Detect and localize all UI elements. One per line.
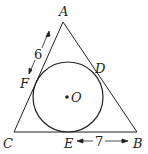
measure-af-label: 6: [34, 47, 42, 62]
triangle-abc: [14, 22, 137, 132]
tangent-label-e: E: [63, 136, 74, 151]
tangent-label-d: D: [94, 61, 106, 76]
vertex-label-c: C: [3, 136, 13, 151]
tangent-label-f: F: [19, 76, 30, 91]
measure-eb-label: 7: [95, 134, 103, 149]
center-point-o: [65, 95, 69, 99]
incircle-diagram: 6 7 A B C D E F O: [0, 0, 148, 154]
center-label-o: O: [71, 90, 82, 105]
vertex-label-b: B: [132, 136, 143, 151]
vertex-label-a: A: [58, 4, 68, 19]
